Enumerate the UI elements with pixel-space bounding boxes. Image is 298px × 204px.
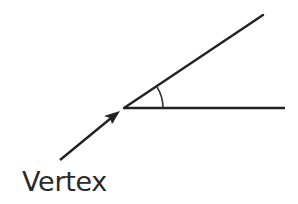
- angle-arc: [157, 86, 164, 108]
- vertex-label: Vertex: [22, 168, 107, 195]
- ray-upper: [124, 15, 263, 108]
- vertex-pointer-arrow: [60, 114, 116, 160]
